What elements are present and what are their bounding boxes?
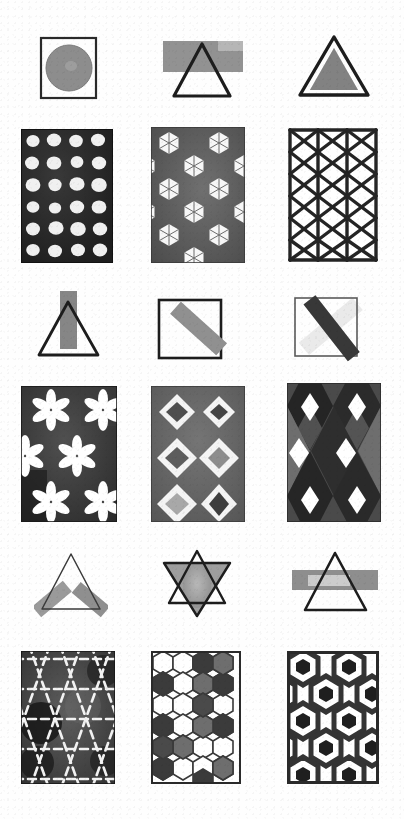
figure-r1c1-square-with-filled-circle [38,35,100,103]
figure-r3c1-triangle-with-vertical-band [32,288,110,366]
square-with-filled-circle-icon [38,35,100,103]
figure-r4c1-six-petal-flower-tile [21,386,117,522]
figure-r3c3-square-with-dark-diagonal-band [290,289,370,365]
figure-r2c3-triangular-lattice-tile [287,127,379,263]
triangle-with-two-tilted-bands-icon [34,547,108,621]
square-with-diagonal-band-icon [155,292,237,366]
honeycomb-tile-icon [151,651,241,784]
argyle-diamond-tile-icon [287,383,381,522]
figure-r5c1-triangle-with-two-tilted-bands [34,547,108,621]
square-with-dark-diagonal-band-icon [290,289,370,365]
triangle-with-vertical-band-icon [32,288,110,366]
figure-r6c3-hexagon-web-tile [287,651,379,784]
six-petal-flower-tile-icon [21,386,117,522]
triangle-over-horizontal-band-icon [158,36,256,104]
figure-r5c2-hexagram-with-wash [156,546,238,622]
diamond-ring-tile-icon [151,386,245,522]
figure-r1c2-triangle-over-band [158,36,256,104]
triangular-lattice-tile-icon [287,127,379,263]
hexagon-web-tile-icon [287,651,379,784]
figure-r4c2-diamond-ring-tile [151,386,245,522]
triangle-crossed-by-band-icon [288,548,382,622]
figure-r6c1-star-triangle-lattice-tile [21,651,115,784]
figure-r1c3-filled-triangle [294,33,374,103]
figure-r2c1-circle-dot-lattice-tile [21,129,113,263]
hexagram-with-wash-icon [156,546,238,622]
circle-dot-lattice-tile-icon [21,129,113,263]
figure-plate [0,0,404,819]
star-triangle-lattice-tile-icon [21,651,115,784]
figure-r4c3-argyle-diamond-tile [287,383,381,522]
figure-r3c2-square-with-diagonal-band [155,292,237,366]
filled-triangle-with-outline-icon [294,33,374,103]
figure-r5c3-triangle-crossed-by-band [288,548,382,622]
figure-r6c2-honeycomb-tile [151,651,241,784]
spoked-hexagon-tile-icon [151,127,245,263]
figure-r2c2-spoked-hexagon-tile [151,127,245,263]
